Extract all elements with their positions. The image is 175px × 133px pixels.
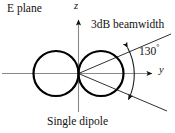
beamwidth-annotation-label: 3dB beamwidth bbox=[91, 19, 164, 31]
y-axis-label: y bbox=[159, 65, 164, 76]
plane-label: E plane bbox=[7, 3, 42, 15]
figure-caption: Single dipole bbox=[47, 116, 108, 128]
angle-value: 130 bbox=[139, 45, 156, 57]
e-plane-dipole-figure: E plane z y 3dB beamwidth 130° Single di… bbox=[0, 0, 175, 133]
angle-annotation-label: 130° bbox=[139, 44, 159, 57]
degree-symbol: ° bbox=[156, 43, 159, 52]
z-axis-label: z bbox=[74, 1, 78, 12]
